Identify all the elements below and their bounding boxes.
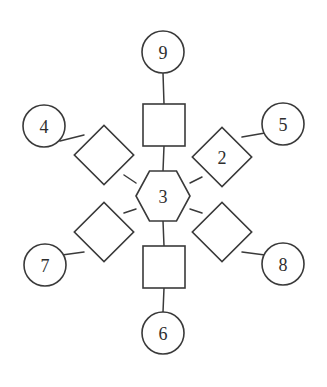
edge-diamond-lower-right-circle-8 xyxy=(242,252,265,255)
circle-5-label: 5 xyxy=(279,115,288,135)
node-center[interactable]: 3 xyxy=(136,171,190,221)
edge-center-diamond-upper-left xyxy=(124,175,136,183)
diamond-2-label: 2 xyxy=(218,148,227,168)
square-bottom-shape xyxy=(143,246,185,288)
edge-center-diamond-lower-left xyxy=(124,209,136,213)
node-square-bottom[interactable] xyxy=(143,246,185,288)
edge-diamond-2-circle-5 xyxy=(242,133,265,137)
node-circle-6[interactable]: 6 xyxy=(142,312,184,354)
edge-center-diamond-lower-right xyxy=(190,209,202,213)
node-circle-5[interactable]: 5 xyxy=(262,103,304,145)
edge-square-top-circle-9 xyxy=(163,73,164,104)
circle-4-label: 4 xyxy=(40,117,49,137)
node-circle-4[interactable]: 4 xyxy=(23,105,65,147)
edge-center-square-top xyxy=(163,146,164,171)
circle-6-label: 6 xyxy=(159,324,168,344)
edge-diamond-upper-left-circle-4 xyxy=(60,135,84,141)
center-label: 3 xyxy=(159,187,168,207)
node-link-diagram: 94257863 xyxy=(0,0,327,387)
diagram-canvas: 94257863 xyxy=(0,0,327,387)
square-top-shape xyxy=(143,104,185,146)
edge-center-diamond-2 xyxy=(190,177,202,183)
node-square-top[interactable] xyxy=(143,104,185,146)
circle-8-label: 8 xyxy=(279,255,288,275)
circle-7-label: 7 xyxy=(41,256,50,276)
edge-center-square-bottom xyxy=(163,221,164,246)
node-circle-7[interactable]: 7 xyxy=(24,244,66,286)
edge-diamond-lower-left-circle-7 xyxy=(62,252,84,255)
circle-9-label: 9 xyxy=(159,43,168,63)
edge-square-bottom-circle-6 xyxy=(163,288,164,312)
node-circle-8[interactable]: 8 xyxy=(262,243,304,285)
node-circle-9[interactable]: 9 xyxy=(142,31,184,73)
